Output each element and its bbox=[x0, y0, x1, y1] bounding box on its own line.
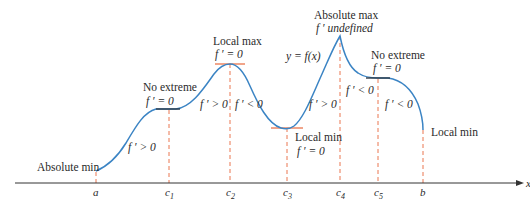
annotation-local-max: Local max f ′ = 0 bbox=[213, 35, 262, 61]
x-axis-label: x bbox=[525, 177, 530, 189]
absolute-max-condition: f ′ undefined bbox=[316, 22, 373, 35]
annotation-absolute-max: Absolute max f ′ undefined bbox=[314, 9, 378, 35]
tick-c4: c4 bbox=[336, 186, 345, 201]
sign-c3-c4: f ′ > 0 bbox=[309, 98, 337, 111]
absolute-min-label: Absolute min bbox=[37, 161, 100, 173]
annotation-absolute-min: Absolute min bbox=[37, 161, 100, 173]
local-min-c3-label: Local min bbox=[295, 131, 342, 143]
tick-c2: c2 bbox=[226, 186, 235, 201]
sign-c1-c2: f ′ > 0 bbox=[200, 98, 228, 111]
local-min-b-label: Local min bbox=[431, 126, 478, 138]
tick-b: b bbox=[420, 186, 426, 198]
no-extreme-c1-label: No extreme bbox=[143, 81, 197, 93]
sign-c4-c5: f ′ < 0 bbox=[346, 84, 374, 97]
sign-a-c1: f ′ > 0 bbox=[128, 141, 156, 154]
no-extreme-c1-condition: f ′ = 0 bbox=[146, 95, 174, 108]
tick-c5-sub: 5 bbox=[379, 192, 383, 201]
local-max-condition: f ′ = 0 bbox=[215, 48, 243, 61]
tick-c3: c3 bbox=[283, 186, 292, 201]
annotation-local-min-c3: Local min f ′ = 0 bbox=[295, 131, 342, 158]
annotation-local-min-b: Local min bbox=[431, 126, 478, 138]
tick-c3-sub: 3 bbox=[287, 192, 292, 201]
tick-labels: a c1 c2 c3 c4 c5 b bbox=[93, 186, 426, 201]
tick-c4-sub: 4 bbox=[341, 192, 345, 201]
no-extreme-c5-label: No extreme bbox=[371, 49, 425, 61]
sign-c5-b: f ′ < 0 bbox=[385, 98, 413, 111]
local-min-c3-condition: f ′ = 0 bbox=[297, 145, 325, 158]
tick-c5: c5 bbox=[374, 186, 383, 201]
tick-c1-sub: 1 bbox=[170, 192, 174, 201]
function-label: y = f(x) bbox=[285, 50, 321, 63]
tick-c2-sub: 2 bbox=[231, 192, 235, 201]
x-axis-arrow-icon bbox=[516, 180, 524, 186]
extrema-diagram: x Absolute min No extreme f ′ = 0 Local … bbox=[0, 0, 530, 206]
absolute-max-label: Absolute max bbox=[314, 9, 378, 21]
annotation-no-extreme-c5: No extreme f ′ = 0 bbox=[371, 49, 425, 75]
tick-c1: c1 bbox=[165, 186, 174, 201]
no-extreme-c5-condition: f ′ = 0 bbox=[373, 62, 401, 75]
local-max-label: Local max bbox=[213, 35, 262, 47]
sign-c2-c3: f ′ < 0 bbox=[235, 98, 263, 111]
tick-a: a bbox=[93, 186, 99, 198]
